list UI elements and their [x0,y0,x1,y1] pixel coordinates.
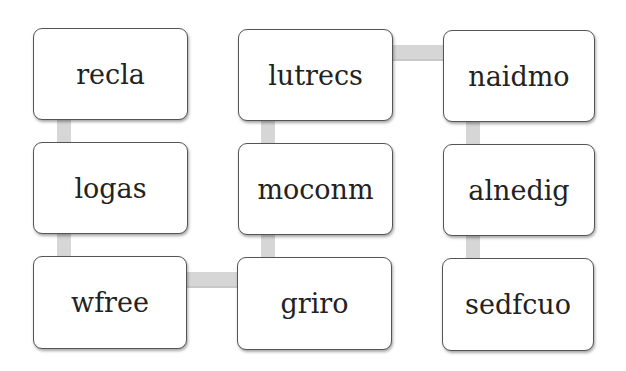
node-label: griro [281,288,349,319]
node-label: sedfcuo [465,289,571,320]
connector-moconm-lutrecs [261,118,275,144]
node-logas: logas [33,142,188,234]
connector-wfree-griro [186,272,239,288]
node-recla: recla [33,28,188,120]
node-alnedig: alnedig [443,144,595,236]
node-sedfcuo: sedfcuo [442,258,594,351]
node-label: naidmo [468,61,569,92]
node-label: lutrecs [268,60,363,91]
connector-naidmo-alnedig [466,120,480,145]
node-label: alnedig [468,175,569,206]
connector-logas-wfree [57,233,71,258]
connector-griro-moconm [261,233,275,258]
node-label: logas [74,173,146,204]
process-diagram: recla lutrecs naidmo logas moconm alnedi… [0,0,626,371]
connector-recla-logas [57,118,71,144]
connector-lutrecs-naidmo [391,45,444,61]
node-naidmo: naidmo [443,30,595,122]
node-griro: griro [237,257,392,350]
connector-alnedig-sedfcuo [466,235,480,260]
node-wfree: wfree [33,256,187,349]
node-moconm: moconm [238,143,393,235]
node-label: wfree [71,287,149,318]
node-lutrecs: lutrecs [238,29,393,121]
node-label: recla [76,59,145,90]
node-label: moconm [257,174,373,205]
